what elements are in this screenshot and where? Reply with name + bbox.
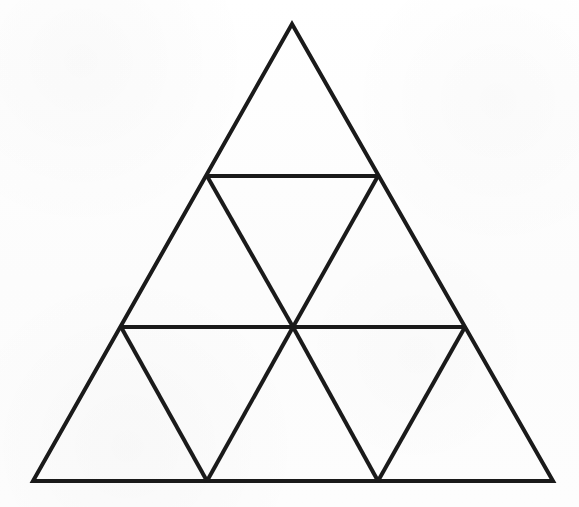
interior-line-right-leaning-upper bbox=[293, 176, 378, 327]
interior-line-left-leaning-lower bbox=[121, 327, 207, 481]
outer-triangle-outline bbox=[33, 24, 553, 481]
interior-line-left-leaning-upper bbox=[207, 176, 293, 327]
triangle-grid-figure bbox=[0, 0, 579, 507]
interior-line-right-leaning-lower-left bbox=[207, 327, 293, 481]
interior-line-left-leaning-lower-right bbox=[293, 327, 378, 481]
interior-line-right-leaning-lower-far bbox=[378, 327, 465, 481]
figure-page bbox=[0, 0, 579, 507]
